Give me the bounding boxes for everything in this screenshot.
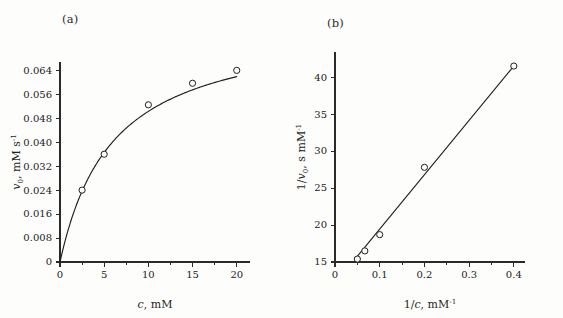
- panel-a-x-ticks: [60, 262, 237, 267]
- panel-b: (b) 00.10.20.30.4 152025303540 1/c, mM-1…: [285, 0, 563, 318]
- svg-text:c, mM: c, mM: [138, 298, 173, 311]
- svg-text:0.2: 0.2: [416, 269, 432, 280]
- svg-text:0: 0: [332, 269, 338, 280]
- panel-a: (a) 05101520 00.0080.0160.0240.0320.0400…: [0, 0, 285, 318]
- svg-text:25: 25: [314, 182, 327, 193]
- svg-text:0.3: 0.3: [461, 269, 477, 280]
- svg-text:1/v0, s mM-1: 1/v0, s mM-1: [294, 124, 310, 190]
- svg-text:20: 20: [314, 219, 327, 230]
- panel-b-y-ticklabels: 152025303540: [314, 72, 327, 268]
- svg-text:0.040: 0.040: [23, 137, 52, 148]
- panel-a-x-ticklabels: 05101520: [57, 269, 243, 280]
- panel-b-fit-line: [355, 66, 514, 259]
- panel-b-plot: 00.10.20.30.4 152025303540 1/c, mM-11/v0…: [285, 0, 563, 318]
- panel-a-y-ticks: [56, 70, 61, 262]
- svg-text:40: 40: [314, 72, 327, 83]
- svg-text:1/c, mM-1: 1/c, mM-1: [404, 297, 457, 311]
- panel-a-plot: 05101520 00.0080.0160.0240.0320.0400.048…: [0, 0, 285, 318]
- svg-text:0.1: 0.1: [372, 269, 388, 280]
- panel-b-tag: (b): [327, 16, 344, 30]
- svg-text:15: 15: [314, 256, 327, 267]
- svg-text:0.008: 0.008: [23, 232, 52, 243]
- panel-b-x-ticks: [335, 262, 514, 267]
- svg-text:0.4: 0.4: [506, 269, 522, 280]
- svg-text:0.016: 0.016: [23, 208, 52, 219]
- panel-b-x-ticklabels: 00.10.20.30.4: [332, 269, 522, 280]
- svg-text:0.024: 0.024: [23, 185, 52, 196]
- svg-text:0: 0: [57, 269, 63, 280]
- svg-text:5: 5: [101, 269, 107, 280]
- panel-a-y-ticklabels: 00.0080.0160.0240.0320.0400.0480.0560.06…: [23, 65, 52, 268]
- svg-text:0.048: 0.048: [23, 113, 52, 124]
- svg-text:35: 35: [314, 109, 327, 120]
- svg-text:0.032: 0.032: [23, 161, 52, 172]
- svg-text:0: 0: [46, 256, 52, 267]
- panel-b-y-ticks: [331, 77, 336, 262]
- panel-b-axes: [335, 52, 525, 262]
- svg-text:20: 20: [230, 269, 243, 280]
- panel-a-data-points: [79, 67, 240, 193]
- figure-canvas: (a) 05101520 00.0080.0160.0240.0320.0400…: [0, 0, 563, 318]
- panel-a-tag: (a): [62, 12, 78, 26]
- panel-a-axes: [60, 62, 250, 262]
- svg-text:10: 10: [142, 269, 155, 280]
- svg-text:0.064: 0.064: [23, 65, 52, 76]
- svg-text:0.056: 0.056: [23, 89, 52, 100]
- svg-text:30: 30: [314, 145, 327, 156]
- svg-text:v0, mM s-1: v0, mM s-1: [9, 134, 25, 190]
- svg-text:15: 15: [186, 269, 199, 280]
